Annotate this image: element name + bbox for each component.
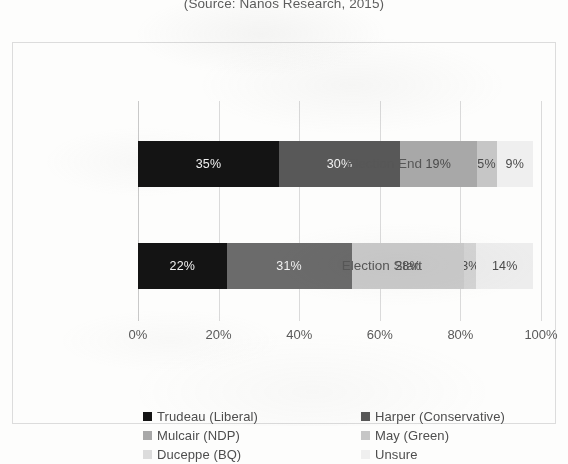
chart-source-note: (Source: Nanos Research, 2015) bbox=[0, 0, 568, 11]
legend-swatch-icon bbox=[361, 431, 370, 440]
bar-segment: 9% bbox=[497, 141, 533, 187]
category-label-election-end: Election End bbox=[302, 156, 422, 171]
legend-label: Trudeau (Liberal) bbox=[157, 409, 258, 424]
plot-area: 35%30%19%5%9% 22%31%28%3%14% bbox=[138, 101, 541, 321]
legend-item: Unsure bbox=[361, 445, 563, 464]
legend-label: Unsure bbox=[375, 447, 418, 462]
x-axis-tick-60: 60% bbox=[350, 327, 410, 342]
legend-label: Harper (Conservative) bbox=[375, 409, 505, 424]
legend-item: Mulcair (NDP) bbox=[143, 426, 361, 445]
legend-swatch-icon bbox=[361, 450, 370, 459]
legend-swatch-icon bbox=[143, 431, 152, 440]
bar-segment: 3% bbox=[464, 243, 476, 289]
legend-item: Duceppe (BQ) bbox=[143, 445, 361, 464]
x-axis-tick-80: 80% bbox=[430, 327, 490, 342]
legend-swatch-icon bbox=[143, 412, 152, 421]
category-label-election-start: Election Start bbox=[302, 258, 422, 273]
legend-swatch-icon bbox=[143, 450, 152, 459]
legend-label: May (Green) bbox=[375, 428, 449, 443]
legend-label: Duceppe (BQ) bbox=[157, 447, 241, 462]
bar-segment: 14% bbox=[476, 243, 532, 289]
legend-item: Trudeau (Liberal) bbox=[143, 407, 361, 426]
bar-segment: 5% bbox=[477, 141, 497, 187]
bar-segment: 35% bbox=[138, 141, 279, 187]
bar-segment: 22% bbox=[138, 243, 227, 289]
legend-item: Harper (Conservative) bbox=[361, 407, 563, 426]
x-axis-tick-40: 40% bbox=[269, 327, 329, 342]
gridline-100 bbox=[541, 101, 542, 321]
chart-frame: 35%30%19%5%9% 22%31%28%3%14% Election En… bbox=[12, 42, 556, 424]
legend-label: Mulcair (NDP) bbox=[157, 428, 240, 443]
x-axis-tick-0: 0% bbox=[108, 327, 168, 342]
chart-legend: Trudeau (Liberal)Harper (Conservative)Mu… bbox=[143, 407, 563, 464]
legend-swatch-icon bbox=[361, 412, 370, 421]
x-axis-tick-20: 20% bbox=[189, 327, 249, 342]
x-axis-tick-100: 100% bbox=[511, 327, 568, 342]
legend-item: May (Green) bbox=[361, 426, 563, 445]
